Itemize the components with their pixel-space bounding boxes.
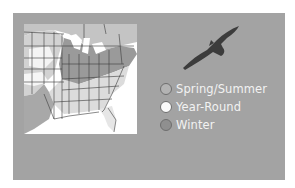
- legend-label: Spring/Summer: [176, 82, 267, 96]
- legend-label: Winter: [176, 118, 215, 132]
- spring-summer-swatch-icon: [160, 83, 172, 95]
- legend: Spring/Summer Year-Round Winter: [160, 80, 267, 134]
- legend-item-year-round: Year-Round: [160, 98, 267, 116]
- legend-item-spring-summer: Spring/Summer: [160, 80, 267, 98]
- legend-item-winter: Winter: [160, 116, 267, 134]
- year-round-swatch-icon: [160, 101, 172, 113]
- legend-label: Year-Round: [176, 100, 241, 114]
- bird-silhouette-icon: [181, 24, 241, 70]
- us-states-map: [24, 24, 137, 134]
- winter-swatch-icon: [160, 119, 172, 131]
- range-map: [24, 24, 137, 134]
